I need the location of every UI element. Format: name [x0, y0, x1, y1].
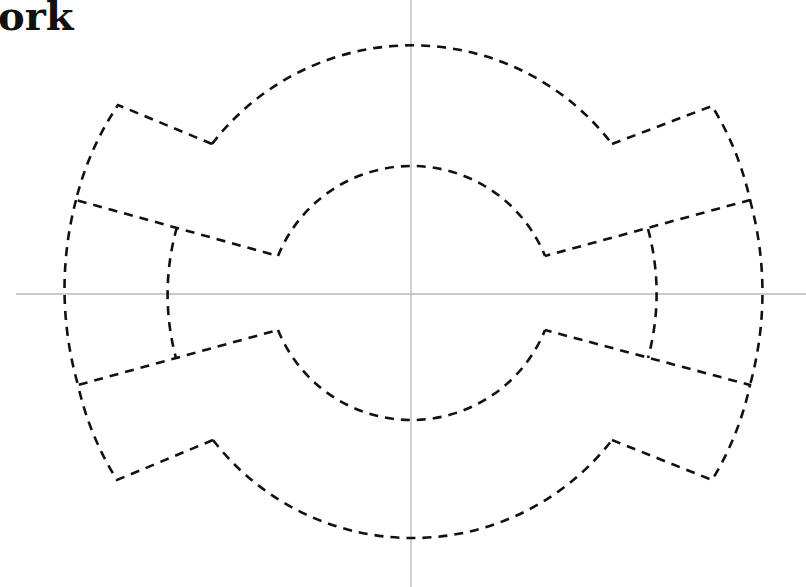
outer-arc-top [212, 45, 612, 144]
outer-arc-bottom [213, 440, 612, 538]
outer-arc-left [65, 200, 78, 385]
middle-arc-left [168, 227, 177, 358]
left-lower-lobe [78, 330, 278, 480]
ring-diagram [0, 0, 806, 587]
right-upper-lobe [545, 106, 750, 256]
left-upper-lobe [76, 105, 278, 256]
right-lower-lobe [545, 330, 750, 480]
outer-arc-right [750, 200, 762, 385]
